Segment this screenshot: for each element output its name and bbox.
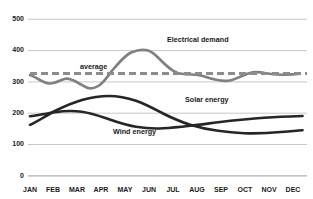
annotation-electrical-demand: Electrical demand xyxy=(167,35,229,44)
series-path-electrical-demand xyxy=(30,50,298,89)
y-axis-label-300: 300 xyxy=(0,78,24,85)
y-axis-label-400: 400 xyxy=(0,46,24,53)
x-axis-label-jan: JAN xyxy=(18,186,42,193)
line-chart: 500 400 300 200 100 0 JAN FEB MAR APR MA… xyxy=(0,0,313,199)
y-axis-label-0: 0 xyxy=(0,172,24,179)
annotation-wind-energy: Wind energy xyxy=(113,127,156,136)
x-axis-label-jul: JUL xyxy=(161,186,185,193)
y-axis-label-100: 100 xyxy=(0,140,24,147)
x-axis-label-nov: NOV xyxy=(257,186,281,193)
x-axis-label-apr: APR xyxy=(89,186,113,193)
y-axis-label-200: 200 xyxy=(0,109,24,116)
x-axis-label-mar: MAR xyxy=(65,186,89,193)
chart-canvas xyxy=(0,0,313,199)
x-axis-label-dec: DEC xyxy=(281,186,305,193)
x-axis-label-aug: AUG xyxy=(185,186,209,193)
annotation-solar-energy: Solar energy xyxy=(185,95,229,104)
x-axis-label-feb: FEB xyxy=(41,186,65,193)
annotation-average: average xyxy=(80,62,107,71)
x-axis-label-oct: OCT xyxy=(233,186,257,193)
x-axis-label-may: MAY xyxy=(113,186,137,193)
y-axis-label-500: 500 xyxy=(0,15,24,22)
x-axis-label-jun: JUN xyxy=(137,186,161,193)
x-axis-label-sep: SEP xyxy=(209,186,233,193)
